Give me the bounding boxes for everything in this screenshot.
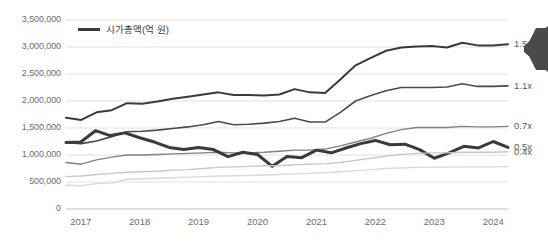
series-end-label-0-4x: 0.4x <box>514 147 532 157</box>
gridlines <box>66 20 508 209</box>
series-line-5 <box>66 167 508 186</box>
y-axis-tick-label: 3,500,000 <box>22 15 61 24</box>
y-axis-tick-label: 2,000,000 <box>22 96 61 105</box>
y-axis-tick-label: 0 <box>56 204 61 213</box>
x-axis-tick-label: 2020 <box>234 217 282 227</box>
legend-label: 시가총액(억 원) <box>106 25 169 35</box>
x-axis-tick-label: 2018 <box>116 217 164 227</box>
series-line-3 <box>66 131 508 167</box>
x-axis-tick-label: 2024 <box>469 217 517 227</box>
series-end-label-1-1x: 1.1x <box>514 81 532 91</box>
series-end-label-0-7x: 0.7x <box>514 121 532 131</box>
x-axis-tick-label: 2022 <box>351 217 399 227</box>
series-line-0 <box>66 43 508 120</box>
y-axis-tick-label: 2,500,000 <box>22 69 61 78</box>
y-axis-tick-label: 1,500,000 <box>22 123 61 132</box>
y-axis-tick-label: 3,000,000 <box>22 42 61 51</box>
y-axis-tick-label: 500,000 <box>29 177 61 186</box>
line-chart-plot <box>0 0 548 250</box>
series-lines <box>66 43 508 186</box>
legend-swatch-sigachongaek <box>78 28 100 31</box>
x-axis-tick-label: 2019 <box>175 217 223 227</box>
x-axis-tick-label: 2023 <box>410 217 458 227</box>
y-axis-tick-label: 1,000,000 <box>22 150 61 159</box>
chevron-left-icon <box>520 26 548 72</box>
chart-container: 0500,0001,000,0001,500,0002,000,0002,500… <box>0 0 548 250</box>
x-axis-tick-label: 2021 <box>292 217 340 227</box>
x-axis-tick-label: 2017 <box>57 217 105 227</box>
legend: 시가총액(억 원) <box>78 25 169 35</box>
